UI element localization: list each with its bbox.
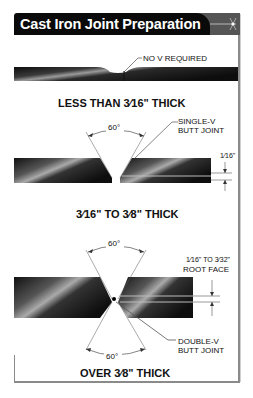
no-v-required-label: NO V REQUIRED bbox=[143, 54, 207, 63]
joint-label-line2: BUTT JOINT bbox=[178, 126, 224, 135]
section-heading-thick: OVER 3⁄8" THICK bbox=[80, 367, 170, 379]
leader-line bbox=[133, 122, 178, 160]
arrow-icon bbox=[223, 180, 227, 184]
single-v-left-plate bbox=[14, 158, 112, 183]
arrow-icon bbox=[223, 169, 227, 173]
arrow-icon bbox=[140, 348, 145, 352]
joint-label-line2: BUTT JOINT bbox=[178, 346, 224, 355]
section-heading-thin: LESS THAN 3⁄16" THICK bbox=[58, 97, 185, 109]
joint-label-line1: SINGLE-V bbox=[178, 117, 215, 126]
angle-label-top: 60° bbox=[108, 239, 120, 248]
arrow-icon bbox=[210, 292, 214, 296]
angle-label-bottom: 60° bbox=[106, 352, 118, 361]
section-heading-medium: 3⁄16" TO 3⁄8" THICK bbox=[76, 208, 179, 220]
arrow-icon bbox=[210, 302, 214, 306]
root-face-label: ROOT FACE bbox=[183, 265, 229, 274]
single-v-right-plate bbox=[120, 158, 211, 183]
arrow-icon bbox=[139, 249, 144, 253]
gap-dimension-label: 1⁄16" bbox=[220, 151, 235, 160]
angle-label: 60° bbox=[108, 123, 120, 132]
root-face-dimension-label: 1⁄16" TO 3⁄32" bbox=[186, 255, 230, 264]
thin-plate bbox=[14, 67, 238, 81]
sparkle-icon bbox=[210, 18, 236, 30]
double-v-left-plate bbox=[14, 277, 112, 318]
root-point bbox=[112, 297, 116, 301]
arrow-icon bbox=[88, 249, 93, 253]
joint-label-line1: DOUBLE-V bbox=[178, 337, 219, 346]
